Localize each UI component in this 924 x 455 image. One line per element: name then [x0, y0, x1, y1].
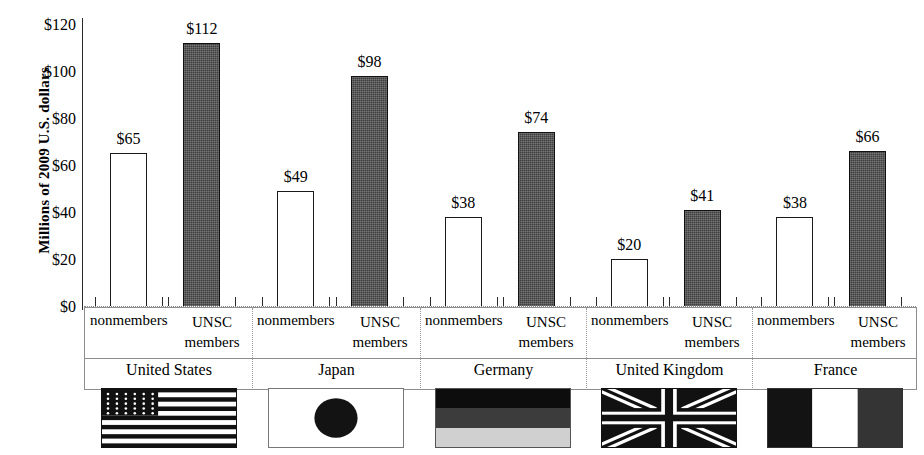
label-unsc-line1: UNSC: [344, 312, 416, 332]
label-unsc-line1: UNSC: [676, 312, 748, 332]
x-axis-tick: [736, 297, 737, 306]
bar-japan-nonmembers: [277, 191, 314, 306]
x-axis-tick: [235, 297, 236, 306]
x-axis-tick: [497, 297, 498, 306]
bar-france-unsc-members: [849, 151, 886, 306]
bar-united-states-unsc-members: [183, 43, 220, 306]
bar-france-nonmembers: [776, 217, 813, 306]
x-axis-tick: [336, 297, 337, 306]
bar-chart: Millions of 2009 U.S. dollars $120 $100 …: [0, 0, 924, 455]
bar-united-kingdom-nonmembers: [611, 259, 648, 306]
x-axis-tick: [570, 297, 571, 306]
flag-france-icon: [767, 388, 903, 448]
label-unsc-line2: members: [344, 332, 416, 352]
flag-united-states-icon: [101, 388, 237, 448]
country-label-germany: Germany: [421, 358, 587, 388]
label-nonmembers: nonmembers: [425, 312, 502, 329]
bar-value-label: $49: [256, 168, 336, 186]
label-unsc-line1: UNSC: [510, 312, 582, 332]
flag-united-kingdom-icon: [601, 388, 737, 448]
x-axis-tick: [596, 297, 597, 306]
country-label-table: United StatesJapanGermanyUnited KingdomF…: [84, 358, 917, 390]
bar-value-label: $112: [162, 20, 242, 38]
x-axis-tick: [329, 297, 330, 306]
label-unsc-line2: members: [842, 332, 914, 352]
bar-value-label: $65: [88, 130, 168, 148]
label-nonmembers: nonmembers: [591, 312, 668, 329]
label-unsc-line2: members: [676, 332, 748, 352]
x-axis-tick: [262, 297, 263, 306]
label-unsc-line2: members: [510, 332, 582, 352]
x-axis-tick: [403, 297, 404, 306]
country-label-france: France: [753, 358, 918, 388]
x-axis-tick: [901, 297, 902, 306]
bar-value-label: $38: [755, 194, 835, 212]
x-axis-tick: [663, 297, 664, 306]
bar-germany-unsc-members: [518, 132, 555, 306]
x-axis-tick: [669, 297, 670, 306]
bar-value-label: $74: [496, 109, 576, 127]
bar-value-label: $66: [828, 128, 908, 146]
label-unsc-line1: UNSC: [842, 312, 914, 332]
country-label-united-kingdom: United Kingdom: [587, 358, 753, 388]
plot-area: $65$112$49$98$38$74$20$41$38$66: [0, 0, 924, 312]
x-axis-tick: [761, 297, 762, 306]
flag-germany-icon: [435, 388, 571, 448]
bar-united-states-nonmembers: [110, 153, 147, 306]
bar-japan-unsc-members: [351, 76, 388, 306]
group-label-table: nonmembersUNSCmembersnonmembersUNSCmembe…: [84, 307, 917, 359]
x-axis-tick: [95, 297, 96, 306]
label-unsc-line1: UNSC: [176, 312, 248, 332]
group-label-cell-france: nonmembersUNSCmembers: [753, 308, 918, 358]
group-label-cell-united-states: nonmembersUNSCmembers: [86, 308, 253, 358]
label-unsc-line2: members: [176, 332, 248, 352]
label-unsc-members: UNSCmembers: [842, 312, 914, 352]
label-nonmembers: nonmembers: [757, 312, 834, 329]
country-label-japan: Japan: [253, 358, 421, 388]
group-label-cell-united-kingdom: nonmembersUNSCmembers: [587, 308, 753, 358]
label-unsc-members: UNSCmembers: [676, 312, 748, 352]
group-label-cell-germany: nonmembersUNSCmembers: [421, 308, 587, 358]
x-axis-tick: [430, 297, 431, 306]
flag-row: [0, 388, 924, 455]
bar-value-label: $98: [330, 53, 410, 71]
x-axis-tick: [828, 297, 829, 306]
bar-value-label: $38: [423, 194, 503, 212]
x-axis-tick: [834, 297, 835, 306]
label-unsc-members: UNSCmembers: [344, 312, 416, 352]
flag-japan-icon: [268, 388, 404, 448]
label-unsc-members: UNSCmembers: [510, 312, 582, 352]
bar-value-label: $41: [662, 187, 742, 205]
x-axis-tick: [162, 297, 163, 306]
country-label-united-states: United States: [86, 358, 253, 388]
label-nonmembers: nonmembers: [90, 312, 167, 329]
x-axis-tick: [168, 297, 169, 306]
bar-value-label: $20: [589, 236, 669, 254]
group-label-cell-japan: nonmembersUNSCmembers: [253, 308, 421, 358]
label-unsc-members: UNSCmembers: [176, 312, 248, 352]
bar-germany-nonmembers: [445, 217, 482, 306]
x-axis-tick: [503, 297, 504, 306]
bar-united-kingdom-unsc-members: [684, 210, 721, 306]
label-nonmembers: nonmembers: [257, 312, 334, 329]
